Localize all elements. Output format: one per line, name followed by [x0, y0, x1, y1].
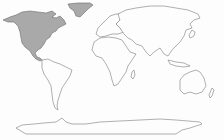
region-new-zealand[interactable] — [209, 88, 214, 98]
region-indonesia[interactable] — [168, 60, 190, 67]
region-north-america[interactable] — [3, 11, 66, 61]
region-australia[interactable] — [180, 70, 206, 94]
region-japan[interactable] — [189, 30, 195, 38]
region-antarctica[interactable] — [16, 118, 202, 134]
region-south-america[interactable] — [42, 59, 72, 110]
region-greenland[interactable] — [68, 3, 93, 17]
region-asia[interactable] — [116, 6, 200, 56]
region-africa[interactable] — [92, 37, 136, 86]
world-map — [0, 0, 224, 140]
region-madagascar[interactable] — [131, 70, 135, 79]
